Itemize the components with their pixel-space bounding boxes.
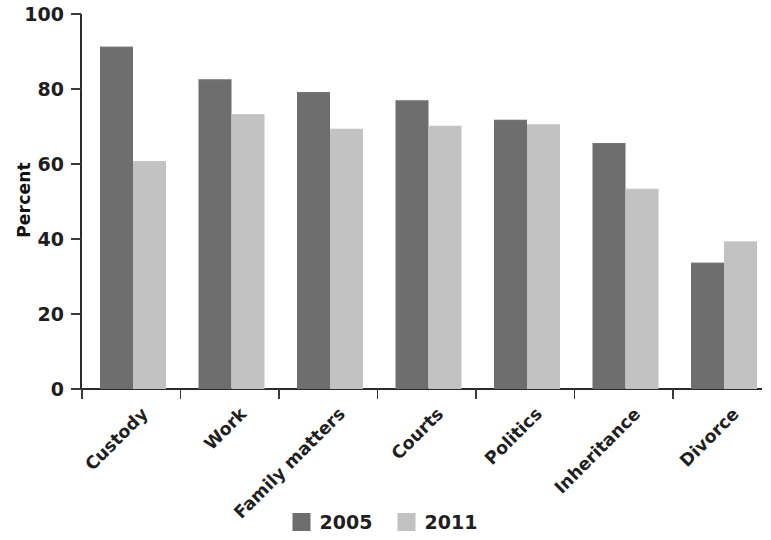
- bar-top-edge: [232, 114, 265, 116]
- bar-2011-divorce: [724, 241, 757, 389]
- x-tick-label: Custody: [81, 403, 152, 474]
- bar-top-edge: [527, 124, 560, 126]
- bar-top-edge: [593, 143, 626, 145]
- y-tick-label: 60: [38, 153, 64, 175]
- y-tick-group: [71, 14, 81, 389]
- x-tick-label-group: CustodyWorkFamily mattersCourtsPoliticsI…: [81, 403, 743, 522]
- y-axis-title: Percent: [14, 162, 34, 238]
- bar-top-edge: [330, 129, 363, 131]
- bar-top-edge: [626, 189, 659, 191]
- bar-top-edge: [724, 241, 757, 243]
- bar-top-edge: [494, 120, 527, 122]
- bar-top-edge: [396, 100, 429, 102]
- bar-2005-politics: [494, 120, 527, 389]
- chart-legend: 20052011: [293, 511, 478, 533]
- bar-2011-family-matters: [330, 129, 363, 389]
- bar-2011-custody: [133, 161, 166, 389]
- x-tick-label: Family matters: [230, 404, 349, 523]
- x-tick-group: [82, 389, 771, 399]
- bar-2011-politics: [527, 124, 560, 389]
- bar-2011-inheritance: [626, 189, 659, 389]
- bar-2011-work: [232, 114, 265, 389]
- y-tick-label: 80: [38, 78, 64, 100]
- bar-top-edge: [100, 47, 133, 49]
- x-tick-label: Courts: [387, 404, 447, 464]
- bar-2005-custody: [100, 47, 133, 389]
- bar-2005-inheritance: [593, 143, 626, 389]
- y-tick-label: 40: [38, 228, 64, 250]
- legend-swatch-2005: [293, 513, 311, 531]
- bar-2005-family-matters: [297, 92, 330, 389]
- chart-canvas: 020406080100 Percent CustodyWorkFamily m…: [0, 0, 771, 540]
- y-tick-label: 20: [38, 303, 64, 325]
- x-tick-label: Politics: [481, 404, 546, 469]
- bar-top-edge: [691, 263, 724, 265]
- bar-group: [100, 47, 757, 389]
- bar-2011-courts: [429, 126, 462, 389]
- bar-2005-work: [199, 79, 232, 389]
- x-tick-label: Divorce: [676, 404, 743, 471]
- legend-label-2005: 2005: [320, 511, 373, 533]
- x-axis: CustodyWorkFamily mattersCourtsPoliticsI…: [81, 389, 771, 523]
- x-tick-label: Work: [200, 403, 250, 453]
- bar-chart: 020406080100 Percent CustodyWorkFamily m…: [0, 0, 771, 540]
- bar-2005-divorce: [691, 263, 724, 389]
- x-tick-label: Inheritance: [550, 404, 644, 498]
- bar-top-edge: [297, 92, 330, 94]
- bar-top-edge: [199, 79, 232, 81]
- bar-2005-courts: [396, 100, 429, 389]
- y-axis: 020406080100 Percent: [14, 3, 81, 400]
- legend-swatch-2011: [398, 513, 416, 531]
- bar-top-edge: [133, 161, 166, 163]
- y-tick-label: 100: [24, 3, 64, 25]
- bar-top-edge: [429, 126, 462, 128]
- legend-label-2011: 2011: [425, 511, 478, 533]
- y-tick-label: 0: [51, 378, 64, 400]
